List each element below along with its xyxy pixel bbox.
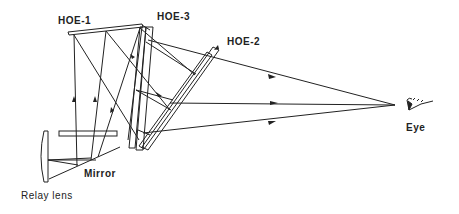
relay-lens-label: Relay lens: [21, 190, 73, 201]
beam-plate: [59, 131, 117, 136]
relay-lens-element: [41, 131, 48, 182]
mirror-label: Mirror: [84, 168, 116, 179]
eye-label: Eye: [406, 122, 425, 133]
hoe3-label: HOE-3: [157, 11, 190, 22]
hoe1-label: HOE-1: [58, 15, 91, 26]
eye-icon: [407, 98, 433, 110]
diagram-canvas: [0, 0, 459, 214]
hoe2-label: HOE-2: [227, 36, 260, 47]
